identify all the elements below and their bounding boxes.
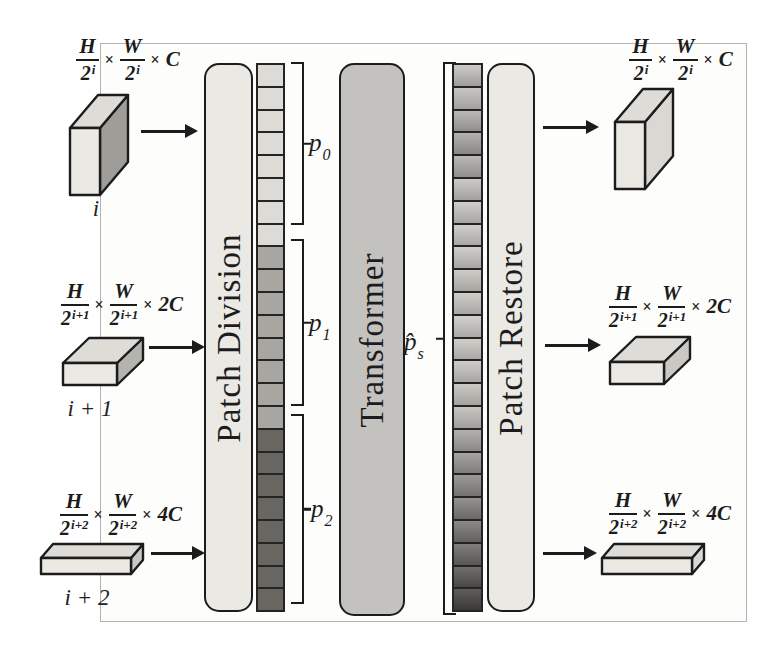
den-base: 2 xyxy=(110,307,120,329)
den-base: 2 xyxy=(81,62,91,84)
fraction-h: H 2i+1 xyxy=(61,281,89,328)
restored-token-cell xyxy=(454,86,481,109)
restored-token-cell xyxy=(454,337,481,360)
fraction-denominator: 2i xyxy=(125,61,139,83)
input-tensor-box-level1 xyxy=(59,334,149,386)
restored-token-cell xyxy=(454,496,481,519)
times-sign: × xyxy=(93,507,104,523)
fraction-h: H 2i xyxy=(629,36,651,83)
output-tensor-box-level1 xyxy=(606,333,696,385)
restored-token-cell xyxy=(454,519,481,542)
den-base: 2 xyxy=(61,307,71,329)
input-tensor-box-level2 xyxy=(39,541,145,577)
restored-tokens-label: p̂s xyxy=(404,329,423,359)
restored-token-cell xyxy=(454,473,481,496)
fraction-numerator: H xyxy=(609,490,637,515)
den-exponent: i xyxy=(136,62,140,77)
fraction-w: W 2i xyxy=(673,36,698,83)
channels-label: 4C xyxy=(157,504,182,525)
fraction-numerator: H xyxy=(61,281,89,306)
patch-restore-bar: Patch Restore xyxy=(487,63,535,612)
fraction-h: H 2i+1 xyxy=(609,283,637,330)
times-sign: × xyxy=(104,52,115,68)
group-bracket-p2 xyxy=(291,414,304,604)
p-sub: 0 xyxy=(323,146,331,163)
fraction-denominator: 2i+1 xyxy=(658,308,686,330)
patch-cell-p1 xyxy=(258,359,283,382)
restored-token-cell xyxy=(454,542,481,565)
fraction-denominator: 2i xyxy=(678,61,692,83)
fraction-numerator: H xyxy=(76,36,98,61)
token-column-division xyxy=(256,63,285,612)
patch-cell-p0 xyxy=(258,200,283,223)
den-base: 2 xyxy=(634,62,644,84)
channels-label: C xyxy=(166,49,180,70)
restored-token-cell xyxy=(454,428,481,451)
den-base: 2 xyxy=(609,309,619,331)
token-column-restore xyxy=(452,63,483,612)
box-top-face xyxy=(41,544,143,558)
fraction-denominator: 2i xyxy=(634,61,648,83)
box-top-face xyxy=(602,544,704,558)
group-bracket-p1 xyxy=(291,239,304,406)
den-exponent: i xyxy=(689,62,693,77)
fraction-w: W 2i+2 xyxy=(109,491,137,538)
times-sign: × xyxy=(150,52,161,68)
p-sub: 1 xyxy=(323,326,331,343)
fraction-w: W 2i xyxy=(120,36,145,83)
patch-cell-p0 xyxy=(258,109,283,132)
restored-token-cell xyxy=(454,177,481,200)
fraction-denominator: 2i xyxy=(81,61,95,83)
patch-division-bar: Patch Division xyxy=(204,63,253,612)
channels-label: C xyxy=(719,49,733,70)
den-exponent: i xyxy=(645,62,649,77)
den-exponent: i+1 xyxy=(669,309,687,324)
fraction-denominator: 2i+2 xyxy=(658,515,686,537)
arrow-input-level0 xyxy=(141,130,186,133)
input-dims-level0: H 2i × W 2i × C xyxy=(72,36,184,83)
den-exponent: i+2 xyxy=(620,516,638,531)
input-dims-level1: H 2i+1 × W 2i+1 × 2C xyxy=(48,281,196,328)
channels-label: 2C xyxy=(706,296,731,317)
den-base: 2 xyxy=(125,62,135,84)
fraction-denominator: 2i+1 xyxy=(61,306,89,328)
restored-token-cell xyxy=(454,131,481,154)
input-box-label-level1: i + 1 xyxy=(55,396,125,422)
fraction-numerator: W xyxy=(673,36,698,61)
restored-token-cell xyxy=(454,314,481,337)
patch-cell-p1 xyxy=(258,382,283,405)
restored-token-cell xyxy=(454,382,481,405)
times-sign: × xyxy=(642,506,653,522)
restored-token-cell xyxy=(454,268,481,291)
patch-cell-p1 xyxy=(258,268,283,291)
fraction-h: H 2i xyxy=(76,36,98,83)
fraction-denominator: 2i+2 xyxy=(60,516,88,538)
den-base: 2 xyxy=(109,517,119,539)
channels-label: 2C xyxy=(158,294,183,315)
patch-cell-p2 xyxy=(258,473,283,496)
restored-token-cell xyxy=(454,245,481,268)
transformer-label: Transformer xyxy=(354,252,391,427)
restored-token-cell xyxy=(454,587,481,610)
den-exponent: i+1 xyxy=(121,307,139,322)
times-sign: × xyxy=(657,52,668,68)
restored-token-cell xyxy=(454,65,481,86)
patch-division-label: Patch Division xyxy=(210,233,247,442)
fraction-w: W 2i+1 xyxy=(110,281,138,328)
times-sign: × xyxy=(141,507,152,523)
fraction-denominator: 2i+1 xyxy=(110,306,138,328)
patch-cell-p2 xyxy=(258,451,283,474)
box-front-face xyxy=(41,558,131,574)
output-tensor-box-level0 xyxy=(611,84,723,194)
den-base: 2 xyxy=(609,516,619,538)
patch-cell-p0 xyxy=(258,131,283,154)
figure-canvas: H 2i × W 2i × C i H 2i+1 × W 2i+1 × 2C xyxy=(0,0,780,657)
patch-cell-p2 xyxy=(258,565,283,588)
restored-token-cell xyxy=(454,223,481,246)
group-label-p1: p1 xyxy=(309,310,330,340)
p-hat-base: p̂ xyxy=(404,328,417,355)
patch-cell-p2 xyxy=(258,428,283,451)
restored-token-cell xyxy=(454,565,481,588)
p-base: p xyxy=(309,129,322,156)
restored-token-cell xyxy=(454,405,481,428)
